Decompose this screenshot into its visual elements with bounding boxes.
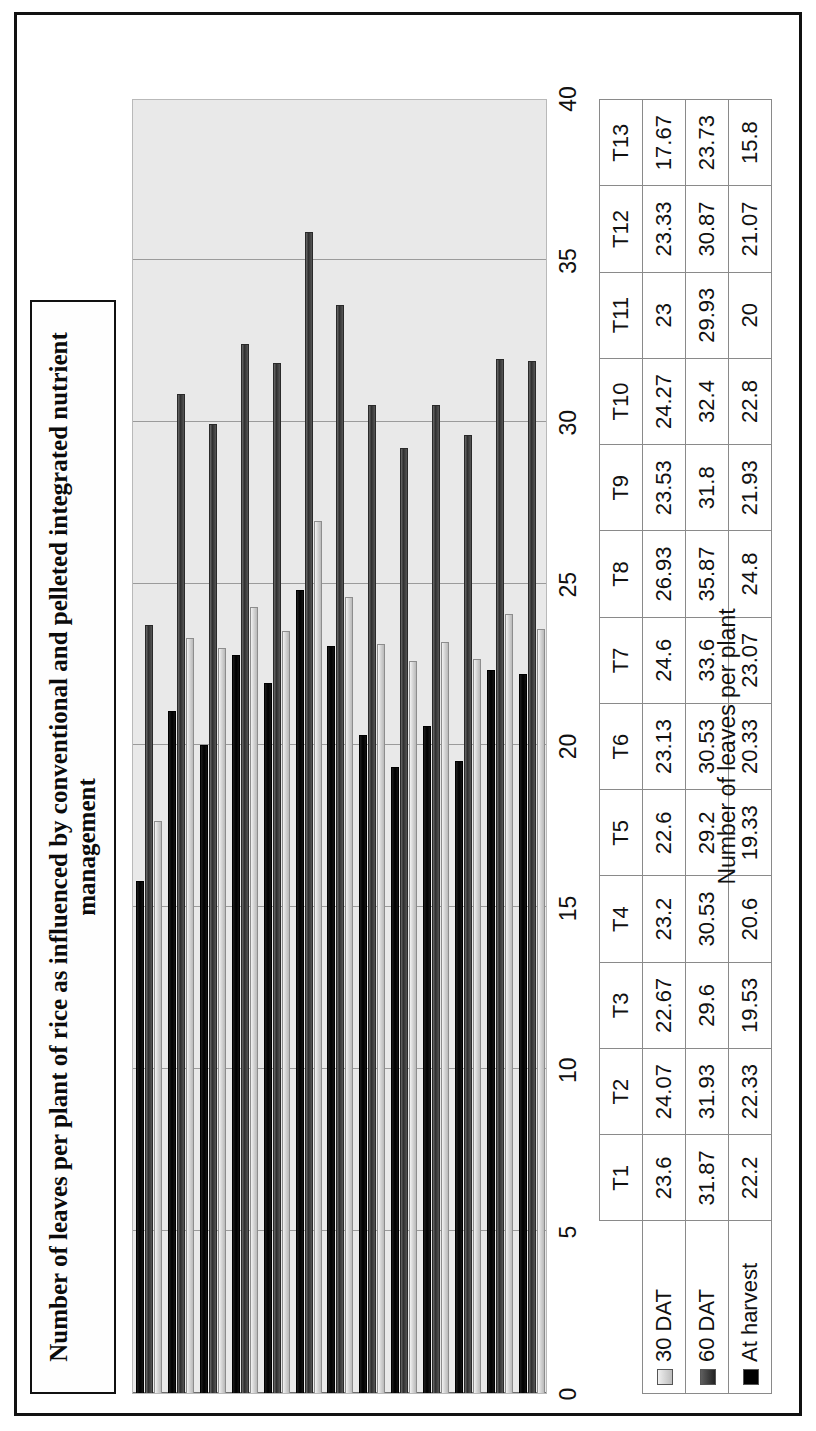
table-col-header-t7: T7 bbox=[600, 617, 643, 703]
bar-t7-60-dat bbox=[336, 305, 344, 1393]
bar-t9-at-harvest bbox=[264, 683, 272, 1393]
bar-t12-30-dat bbox=[186, 638, 194, 1393]
value-axis-title: Number of leaves per plant bbox=[714, 99, 741, 1394]
bar-t3-30-dat bbox=[473, 659, 481, 1393]
bar-t10-30-dat bbox=[250, 607, 258, 1393]
bar-t1-30-dat bbox=[537, 629, 545, 1393]
table-cell-t3: 22.67 bbox=[643, 962, 686, 1048]
table-cell-t1: 23.6 bbox=[643, 1135, 686, 1221]
bar-t11-60-dat bbox=[209, 424, 217, 1393]
legend-swatch-icon bbox=[743, 1369, 759, 1385]
bar-t5-30-dat bbox=[409, 661, 417, 1393]
bar-t12-60-dat bbox=[177, 394, 185, 1393]
bar-t10-at-harvest bbox=[232, 655, 240, 1393]
bar-t3-at-harvest bbox=[455, 761, 463, 1393]
table-cell-t2: 24.07 bbox=[643, 1048, 686, 1134]
table-cell-t12: 23.33 bbox=[643, 186, 686, 272]
bar-t7-30-dat bbox=[345, 597, 353, 1393]
page-title: Number of leaves per plant of rice as in… bbox=[45, 316, 101, 1378]
bar-t8-30-dat bbox=[314, 521, 322, 1393]
tick-label-0: 0 bbox=[555, 1388, 582, 1401]
plot-region bbox=[132, 99, 547, 1394]
legend-label: 30 DAT bbox=[651, 1289, 676, 1362]
legend-swatch-icon bbox=[657, 1369, 673, 1385]
chart-title-box: Number of leaves per plant of rice as in… bbox=[30, 300, 116, 1394]
bar-t1-at-harvest bbox=[519, 674, 527, 1393]
table-cell-t8: 26.93 bbox=[643, 531, 686, 617]
bar-t2-at-harvest bbox=[487, 670, 495, 1393]
table-col-header-t10: T10 bbox=[600, 358, 643, 444]
tick-label-15: 15 bbox=[555, 896, 582, 922]
table-col-header-t4: T4 bbox=[600, 876, 643, 962]
bar-group-t7 bbox=[325, 100, 357, 1393]
rotated-chart-wrapper: Number of leaves per plant of rice as in… bbox=[14, 12, 802, 1416]
bar-t4-60-dat bbox=[432, 405, 440, 1393]
table-col-header-t9: T9 bbox=[600, 445, 643, 531]
bar-t2-30-dat bbox=[505, 614, 513, 1393]
bar-t6-30-dat bbox=[377, 644, 385, 1393]
tick-label-5: 5 bbox=[555, 1226, 582, 1239]
table-col-header-t5: T5 bbox=[600, 790, 643, 876]
bar-group-t8 bbox=[293, 100, 325, 1393]
table-header-row: T1T2T3T4T5T6T7T8T9T10T11T12T13 bbox=[600, 100, 643, 1394]
bar-t4-30-dat bbox=[441, 642, 449, 1393]
bar-group-t1 bbox=[516, 100, 547, 1393]
bar-t13-30-dat bbox=[154, 821, 162, 1393]
tick-label-35: 35 bbox=[555, 248, 582, 274]
bar-group-t3 bbox=[452, 100, 484, 1393]
table-col-header-t1: T1 bbox=[600, 1135, 643, 1221]
table-cell-t5: 22.6 bbox=[643, 790, 686, 876]
bar-t8-60-dat bbox=[305, 232, 313, 1393]
bar-group-t9 bbox=[261, 100, 293, 1393]
legend-item-30-dat: 30 DAT bbox=[643, 1221, 686, 1394]
bar-t4-at-harvest bbox=[423, 726, 431, 1393]
bar-t11-30-dat bbox=[218, 648, 226, 1393]
table-col-header-t12: T12 bbox=[600, 186, 643, 272]
data-table: T1T2T3T4T5T6T7T8T9T10T11T12T13 30 DAT23.… bbox=[599, 99, 772, 1394]
tick-label-25: 25 bbox=[555, 572, 582, 598]
bar-group-t10 bbox=[229, 100, 261, 1393]
bar-t5-60-dat bbox=[400, 448, 408, 1393]
bar-group-t6 bbox=[356, 100, 388, 1393]
tick-label-20: 20 bbox=[555, 734, 582, 760]
bar-t7-at-harvest bbox=[327, 646, 335, 1393]
bar-group-t4 bbox=[420, 100, 452, 1393]
table-cell-t7: 24.6 bbox=[643, 617, 686, 703]
table-col-header-t8: T8 bbox=[600, 531, 643, 617]
bar-t5-at-harvest bbox=[391, 767, 399, 1393]
table-cell-t9: 23.53 bbox=[643, 445, 686, 531]
bar-t9-60-dat bbox=[273, 363, 281, 1393]
table-cell-t11: 23 bbox=[643, 272, 686, 358]
bar-t6-60-dat bbox=[368, 405, 376, 1393]
bar-group-t5 bbox=[388, 100, 420, 1393]
tick-label-10: 10 bbox=[555, 1057, 582, 1083]
bar-group-t12 bbox=[165, 100, 197, 1393]
table-corner-cell bbox=[600, 1221, 643, 1394]
chart-canvas: Number of leaves per plant of rice as in… bbox=[14, 12, 802, 1416]
table-col-header-t3: T3 bbox=[600, 962, 643, 1048]
table-row: 30 DAT23.624.0722.6723.222.623.1324.626.… bbox=[643, 100, 686, 1394]
table-col-header-t6: T6 bbox=[600, 703, 643, 789]
bar-t1-60-dat bbox=[528, 361, 536, 1393]
bar-t6-at-harvest bbox=[359, 735, 367, 1393]
table-body: 30 DAT23.624.0722.6723.222.623.1324.626.… bbox=[643, 100, 772, 1394]
bar-group-t2 bbox=[484, 100, 516, 1393]
bar-t12-at-harvest bbox=[168, 711, 176, 1393]
bar-t11-at-harvest bbox=[200, 746, 208, 1394]
bar-group-t11 bbox=[197, 100, 229, 1393]
table-cell-t13: 17.67 bbox=[643, 100, 686, 186]
bar-t8-at-harvest bbox=[296, 590, 304, 1393]
bar-t2-60-dat bbox=[496, 359, 504, 1393]
table-col-header-t2: T2 bbox=[600, 1048, 643, 1134]
tick-label-40: 40 bbox=[555, 86, 582, 112]
table-col-header-t11: T11 bbox=[600, 272, 643, 358]
plot-area bbox=[132, 99, 547, 1394]
bar-t9-30-dat bbox=[282, 631, 290, 1393]
table-cell-t10: 24.27 bbox=[643, 358, 686, 444]
bar-t10-60-dat bbox=[241, 344, 249, 1393]
bar-t3-60-dat bbox=[464, 435, 472, 1393]
table-cell-t6: 23.13 bbox=[643, 703, 686, 789]
bar-t13-60-dat bbox=[145, 625, 153, 1393]
tick-label-30: 30 bbox=[555, 410, 582, 436]
table-cell-t4: 23.2 bbox=[643, 876, 686, 962]
